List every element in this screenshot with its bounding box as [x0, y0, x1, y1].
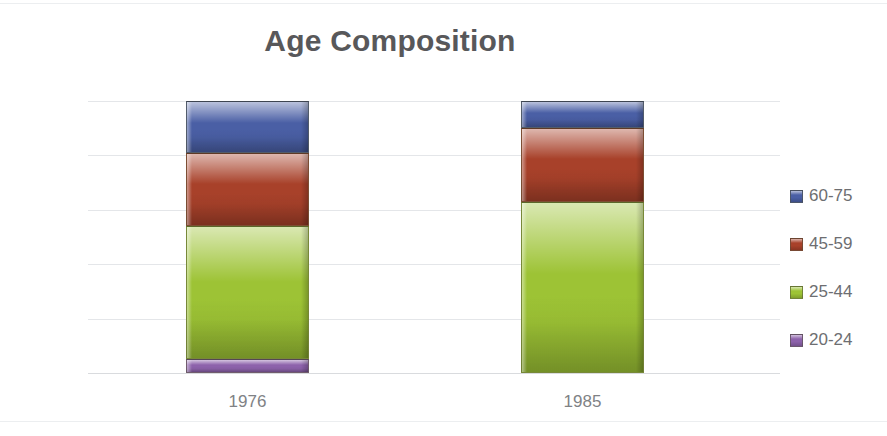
legend-label: 45-59	[809, 234, 852, 254]
legend-swatch-icon	[790, 334, 803, 347]
segment-right-shadow	[301, 227, 308, 358]
legend-swatch-icon	[790, 286, 803, 299]
segment-shadow	[522, 179, 643, 200]
legend-swatch-icon	[790, 238, 803, 251]
bar-segment-45-59[interactable]	[186, 153, 309, 226]
segment-shadow	[522, 321, 643, 372]
segment-gloss	[522, 203, 643, 274]
segment-left-highlight	[187, 227, 192, 358]
segment-right-shadow	[636, 102, 643, 127]
segment-left-highlight	[187, 360, 192, 372]
segment-left-highlight	[522, 102, 527, 127]
segment-shadow	[187, 369, 308, 372]
plot-area: 100%80%60%40%20%0%	[88, 101, 780, 373]
segment-gloss	[187, 360, 308, 365]
segment-left-highlight	[522, 129, 527, 200]
chart-container: Age Composition 100%80%60%40%20%0% 60-75…	[0, 0, 887, 436]
legend-swatch-gloss	[791, 287, 802, 292]
segment-right-shadow	[301, 360, 308, 372]
segment-shadow	[522, 120, 643, 128]
frame-divider-top	[0, 3, 887, 4]
segment-right-shadow	[636, 129, 643, 200]
segment-gloss	[187, 154, 308, 184]
segment-shadow	[187, 319, 308, 358]
segment-gloss	[522, 102, 643, 113]
segment-right-shadow	[301, 102, 308, 152]
segment-gloss	[187, 102, 308, 123]
bar-column-1985[interactable]	[521, 101, 644, 373]
bar-segment-60-75[interactable]	[186, 101, 309, 153]
segment-gloss	[522, 129, 643, 159]
bar-segment-45-59[interactable]	[521, 128, 644, 201]
segment-gloss	[187, 227, 308, 282]
legend-swatch-gloss	[791, 191, 802, 196]
legend-swatch-icon	[790, 190, 803, 203]
bar-column-1976[interactable]	[186, 101, 309, 373]
bar-segment-25-44[interactable]	[186, 226, 309, 359]
frame-divider-bottom	[0, 421, 887, 422]
segment-right-shadow	[636, 203, 643, 372]
legend-item-60-75[interactable]: 60-75	[790, 172, 882, 220]
bar-segment-60-75[interactable]	[521, 101, 644, 128]
bar-segment-25-44[interactable]	[521, 202, 644, 373]
segment-left-highlight	[187, 102, 192, 152]
bar-segment-20-24[interactable]	[186, 359, 309, 373]
legend-item-20-24[interactable]: 20-24	[790, 316, 882, 364]
segment-right-shadow	[301, 154, 308, 225]
legend-item-45-59[interactable]: 45-59	[790, 220, 882, 268]
segment-shadow	[187, 137, 308, 152]
legend-swatch-gloss	[791, 335, 802, 340]
x-axis-tick-label-1976: 1976	[186, 392, 309, 412]
x-axis-tick-label-1985: 1985	[521, 392, 644, 412]
segment-left-highlight	[522, 203, 527, 372]
legend-item-25-44[interactable]: 25-44	[790, 268, 882, 316]
chart-legend: 60-7545-5925-4420-24	[790, 172, 882, 364]
bar-stack	[521, 101, 644, 373]
segment-left-highlight	[187, 154, 192, 225]
gridline-0	[88, 373, 780, 374]
legend-label: 20-24	[809, 330, 852, 350]
legend-label: 60-75	[809, 186, 852, 206]
bar-stack	[186, 101, 309, 373]
segment-shadow	[187, 204, 308, 225]
legend-label: 25-44	[809, 282, 852, 302]
legend-swatch-gloss	[791, 239, 802, 244]
chart-title: Age Composition	[0, 24, 780, 58]
